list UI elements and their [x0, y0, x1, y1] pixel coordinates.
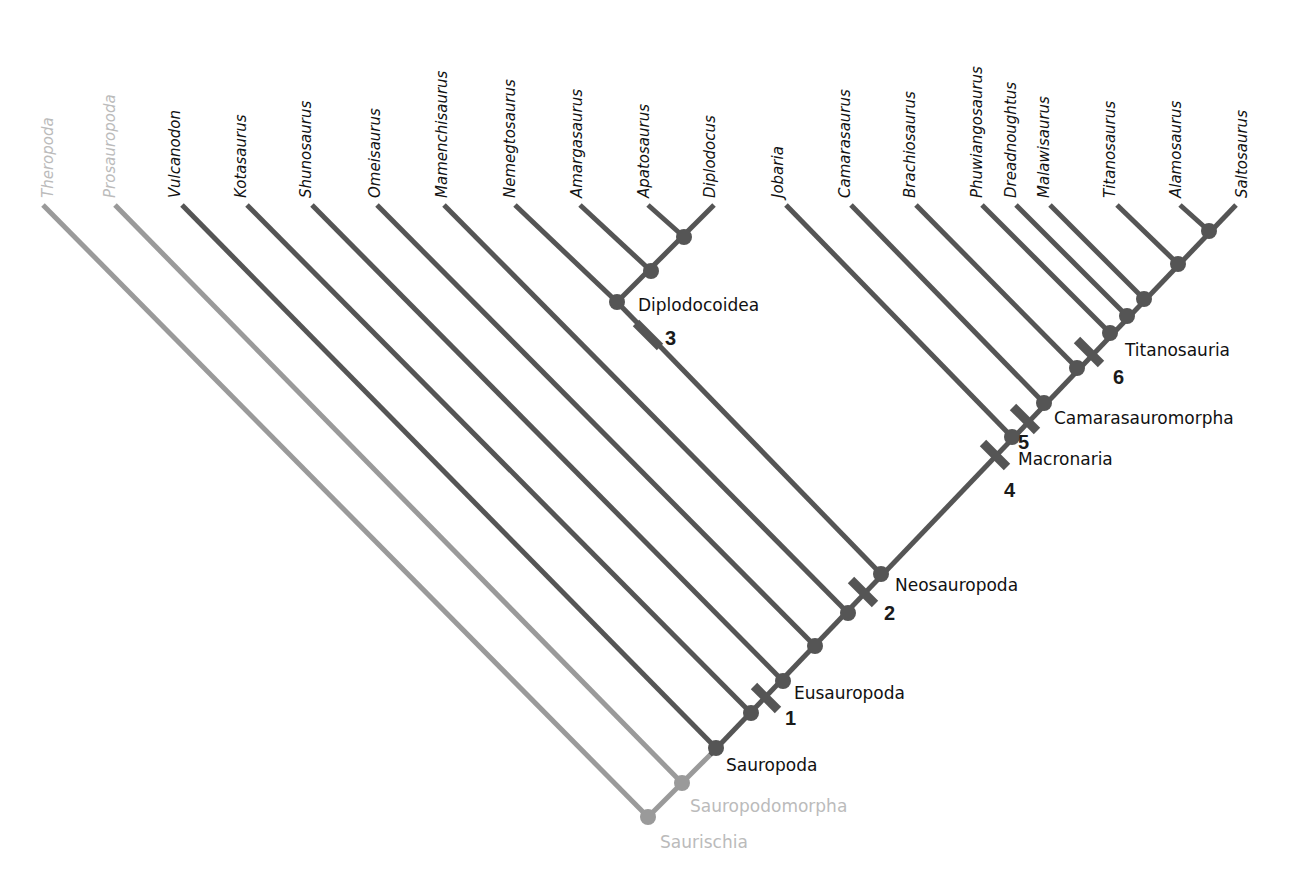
- clade-label-sauropodomorpha: Sauropodomorpha: [690, 796, 847, 816]
- taxon-label-prosauropoda: Prosauropoda: [103, 94, 118, 198]
- clade-label-eusauropoda: Eusauropoda: [794, 683, 905, 703]
- taxon-label-malawisaurus: Malawisaurus: [1037, 96, 1052, 198]
- taxon-label-shunosaurus: Shunosaurus: [299, 101, 314, 198]
- clade-label-neosauropoda: Neosauropoda: [895, 575, 1018, 595]
- taxon-label-saltosaurus: Saltosaurus: [1235, 110, 1250, 198]
- taxon-label-mamenchisaurus: Mamenchisaurus: [435, 71, 450, 198]
- taxon-label-apatosaurus: Apatosaurus: [637, 104, 652, 198]
- taxon-label-amargasaurus: Amargasaurus: [570, 89, 585, 198]
- synapomorphy-bars: [636, 323, 1101, 710]
- clade-label-macronaria: Macronaria: [1018, 449, 1113, 469]
- clade-label-sauropoda: Sauropoda: [726, 755, 817, 775]
- character-mark-2: 2: [884, 603, 895, 623]
- clade-label-titanosauria: Titanosauria: [1125, 340, 1230, 360]
- clade-label-camarasauromorpha: Camarasauromorpha: [1054, 408, 1234, 428]
- taxon-label-nemegtosaurus: Nemegtosaurus: [503, 79, 518, 198]
- sauropod-branches: [182, 205, 1236, 755]
- taxon-label-jobaria: Jobaria: [771, 146, 786, 198]
- taxon-label-phuwiangosaurus: Phuwiangosaurus: [970, 66, 985, 198]
- character-mark-5: 5: [1018, 432, 1029, 452]
- character-mark-3: 3: [665, 328, 676, 348]
- character-mark-6: 6: [1113, 367, 1124, 387]
- taxon-label-brachiosaurus: Brachiosaurus: [903, 91, 918, 198]
- taxon-label-titanosaurus: Titanosaurus: [1103, 101, 1118, 198]
- taxon-label-dreadnoughtus: Dreadnoughtus: [1004, 82, 1019, 198]
- clade-label-diplodocoidea: Diplodocoidea: [638, 295, 759, 315]
- character-mark-4: 4: [1004, 480, 1015, 500]
- clade-label-saurischia: Saurischia: [660, 832, 748, 852]
- taxon-label-alamosaurus: Alamosaurus: [1169, 101, 1184, 198]
- taxon-label-camarasaurus: Camarasaurus: [838, 89, 853, 198]
- taxon-label-kotasaurus: Kotasaurus: [234, 114, 249, 198]
- taxon-label-omeisaurus: Omeisaurus: [368, 108, 383, 198]
- taxon-label-vulcanodon: Vulcanodon: [168, 110, 183, 198]
- taxon-label-diplodocus: Diplodocus: [703, 115, 718, 198]
- taxon-label-theropoda: Theropoda: [41, 117, 56, 198]
- character-mark-1: 1: [785, 708, 796, 728]
